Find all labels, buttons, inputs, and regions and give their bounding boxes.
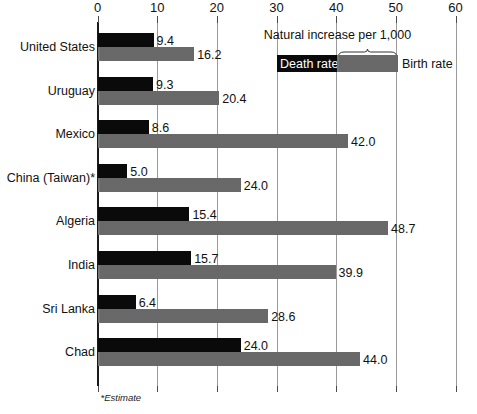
bar-death-rate-7 — [98, 338, 241, 352]
bar-death-rate-4 — [98, 207, 190, 221]
x-axis-tick-50 — [396, 16, 397, 23]
row-label-3: China (Taiwan)* — [7, 171, 95, 185]
bar-value-death-7: 24.0 — [244, 339, 268, 353]
gridline-30 — [277, 22, 278, 386]
x-axis-tick-60 — [456, 16, 457, 23]
row-label-1: Uruguay — [48, 84, 95, 98]
x-axis-tick-0 — [98, 16, 99, 23]
x-axis-bottom-tick-20 — [217, 386, 218, 392]
x-axis-bottom-tick-10 — [157, 386, 158, 392]
gridline-60 — [456, 22, 457, 386]
legend-title: Natural increase per 1,000 — [264, 28, 411, 42]
x-axis-tick-label-10: 10 — [150, 0, 164, 15]
x-axis-tick-label-40: 40 — [329, 0, 343, 15]
bar-death-rate-5 — [98, 251, 192, 265]
bar-death-rate-1 — [98, 77, 153, 91]
bar-death-rate-6 — [98, 295, 136, 309]
row-label-7: Chad — [65, 345, 95, 359]
gridline-10 — [157, 22, 158, 386]
bar-value-death-2: 8.6 — [152, 121, 169, 135]
bar-value-birth-6: 28.6 — [271, 310, 295, 324]
bar-birth-rate-3 — [98, 178, 241, 192]
x-axis-tick-label-20: 20 — [210, 0, 224, 15]
bar-death-rate-3 — [98, 164, 128, 178]
row-label-4: Algeria — [56, 214, 95, 228]
bar-birth-rate-4 — [98, 221, 389, 235]
bar-chart: 0102030405060United States9.416.2Uruguay… — [0, 0, 477, 414]
x-axis-bottom-tick-30 — [277, 386, 278, 392]
legend-label-death-rate: Death rate — [277, 57, 338, 71]
bar-birth-rate-2 — [98, 134, 349, 148]
bar-birth-rate-0 — [98, 47, 195, 61]
x-axis-tick-label-60: 60 — [448, 0, 462, 15]
bar-value-birth-7: 44.0 — [363, 353, 387, 367]
row-label-5: India — [68, 258, 95, 272]
bar-value-birth-1: 20.4 — [222, 92, 246, 106]
bar-birth-rate-5 — [98, 265, 336, 279]
x-axis-bottom-tick-50 — [396, 386, 397, 392]
bar-value-birth-2: 42.0 — [351, 135, 375, 149]
x-axis-tick-label-50: 50 — [389, 0, 403, 15]
bar-death-rate-0 — [98, 33, 154, 47]
legend-label-birth-rate: Birth rate — [402, 57, 453, 71]
legend-swatch-birth-rate — [337, 55, 398, 72]
bar-value-birth-5: 39.9 — [339, 266, 363, 280]
bar-birth-rate-6 — [98, 309, 269, 323]
bar-value-death-1: 9.3 — [156, 78, 173, 92]
bar-value-death-4: 15.4 — [192, 208, 216, 222]
footnote-estimate: *Estimate — [101, 392, 142, 403]
gridline-50 — [396, 22, 397, 386]
x-axis-bottom-tick-60 — [456, 386, 457, 392]
bar-death-rate-2 — [98, 120, 149, 134]
bar-value-birth-4: 48.7 — [391, 222, 415, 236]
bar-value-birth-0: 16.2 — [197, 48, 221, 62]
x-axis-tick-label-0: 0 — [94, 0, 101, 15]
x-axis-tick-40 — [336, 16, 337, 23]
x-axis-tick-label-30: 30 — [269, 0, 283, 15]
x-axis-bottom-tick-0 — [98, 386, 99, 392]
x-axis-tick-10 — [157, 16, 158, 23]
bar-birth-rate-7 — [98, 352, 361, 366]
legend-swatch-death-rate: Death rate — [277, 55, 337, 72]
gridline-40 — [336, 22, 337, 386]
bar-value-death-6: 6.4 — [139, 296, 156, 310]
row-label-2: Mexico — [55, 127, 95, 141]
bar-value-death-0: 9.4 — [157, 34, 174, 48]
legend-brace-icon — [337, 45, 398, 55]
bar-value-death-5: 15.7 — [194, 252, 218, 266]
bar-value-birth-3: 24.0 — [244, 179, 268, 193]
x-axis-tick-20 — [217, 16, 218, 23]
row-label-6: Sri Lanka — [42, 302, 95, 316]
row-label-0: United States — [20, 40, 95, 54]
x-axis-bottom-tick-40 — [336, 386, 337, 392]
x-axis-tick-30 — [277, 16, 278, 23]
gridline-20 — [217, 22, 218, 386]
bar-birth-rate-1 — [98, 91, 220, 105]
bar-value-death-3: 5.0 — [130, 165, 147, 179]
